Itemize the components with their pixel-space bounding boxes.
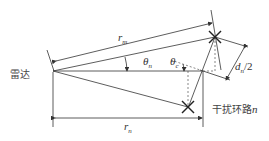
jammer-loop-line [188,37,215,108]
theta-c-arc [183,64,184,71]
ray-lower [53,71,188,107]
r-m-label: rm [118,31,127,46]
d-half-label: dn/2 [235,60,253,75]
theta-n-arc [125,57,127,71]
theta-c-label: θc [170,55,179,70]
geometry-diagram [0,0,269,141]
radar-label: 雷达 [10,66,30,81]
r-n-label: rn [124,120,132,135]
r-m-dimension [56,23,212,61]
jammer-loop-label: 干扰环路n [212,101,258,116]
theta-n-label: θn [143,55,152,70]
